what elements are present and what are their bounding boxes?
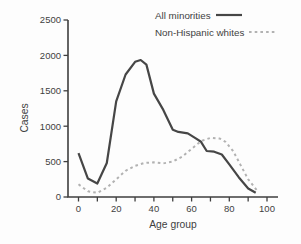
chart-legend: All minorities Non-Hispanic whites bbox=[155, 8, 276, 39]
legend-label-non-hispanic-whites: Non-Hispanic whites bbox=[155, 27, 244, 38]
svg-text:1500: 1500 bbox=[40, 85, 61, 96]
svg-text:60: 60 bbox=[186, 203, 197, 214]
legend-item-non-hispanic-whites: Non-Hispanic whites bbox=[155, 25, 276, 39]
x-axis-label: Age group bbox=[68, 219, 278, 233]
svg-text:2500: 2500 bbox=[40, 14, 61, 25]
svg-text:0: 0 bbox=[76, 203, 81, 214]
legend-label-all-minorities: All minorities bbox=[155, 10, 211, 21]
chart-figure: 05001000150020002500020406080100 All min… bbox=[0, 0, 301, 244]
solid-line-swatch-icon bbox=[215, 12, 243, 18]
svg-text:2000: 2000 bbox=[40, 50, 61, 61]
y-axis-label: Cases bbox=[19, 88, 33, 148]
svg-text:0: 0 bbox=[56, 191, 61, 202]
svg-text:500: 500 bbox=[45, 156, 61, 167]
dotted-line-swatch-icon bbox=[248, 29, 276, 35]
svg-text:80: 80 bbox=[224, 203, 235, 214]
svg-text:40: 40 bbox=[149, 203, 160, 214]
svg-text:100: 100 bbox=[259, 203, 275, 214]
svg-text:20: 20 bbox=[111, 203, 122, 214]
legend-item-all-minorities: All minorities bbox=[155, 8, 276, 22]
svg-text:1000: 1000 bbox=[40, 121, 61, 132]
